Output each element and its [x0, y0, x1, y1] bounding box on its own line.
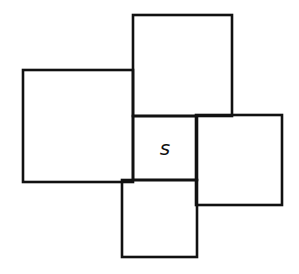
right-rectangle [196, 115, 282, 205]
bottom-square [122, 180, 197, 257]
center-label: s [160, 136, 170, 160]
squares-diagram: s [0, 0, 299, 274]
left-rectangle [23, 70, 133, 182]
top-square [133, 15, 232, 116]
